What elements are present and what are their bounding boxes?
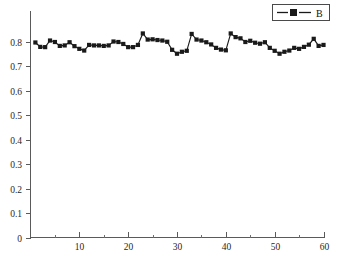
y-tick-label: 0.5 [10, 111, 22, 121]
legend-label-series-b: B [316, 8, 323, 19]
data-point [77, 47, 81, 51]
data-point [312, 37, 316, 41]
x-tick-label: 50 [271, 242, 281, 252]
y-tick-label: 0.2 [10, 185, 22, 195]
y-tick-label: 0.3 [10, 160, 22, 170]
chart-plot-area: 00.10.20.30.40.50.60.70.8 102030405060 B [0, 0, 337, 270]
y-tick-label: 0 [17, 234, 22, 244]
data-point [63, 43, 67, 47]
y-tick-label: 0.1 [10, 209, 22, 219]
data-point [297, 47, 301, 51]
data-point [33, 40, 37, 44]
data-point [107, 43, 111, 47]
data-point [111, 39, 115, 43]
data-point [243, 40, 247, 44]
data-point [185, 49, 189, 53]
data-point [317, 44, 321, 48]
data-point [263, 40, 267, 44]
data-point [292, 46, 296, 50]
data-point [194, 37, 198, 41]
data-point [307, 43, 311, 47]
data-point [155, 38, 159, 42]
data-point [97, 43, 101, 47]
data-point [321, 43, 325, 47]
x-tick-label: 60 [320, 242, 330, 252]
data-point [136, 43, 140, 47]
data-point [87, 43, 91, 47]
data-point [234, 35, 238, 39]
data-point [209, 42, 213, 46]
data-point [58, 44, 62, 48]
data-point [238, 36, 242, 40]
data-point [282, 50, 286, 54]
data-point [160, 38, 164, 42]
x-tick-label: 10 [75, 242, 85, 252]
data-point [72, 44, 76, 48]
data-point [268, 46, 272, 50]
data-point [175, 52, 179, 56]
data-point [141, 31, 145, 35]
data-point [43, 45, 47, 49]
data-point [150, 37, 154, 41]
data-point [121, 42, 125, 46]
data-point [131, 45, 135, 49]
data-point [277, 52, 281, 56]
data-point [199, 38, 203, 42]
data-point [102, 44, 106, 48]
legend-marker-square [290, 9, 297, 16]
y-tick-label: 0.8 [10, 38, 22, 48]
y-tick-label: 0.4 [10, 136, 22, 146]
data-point [67, 40, 71, 44]
data-point [229, 31, 233, 35]
data-point [214, 46, 218, 50]
data-point [273, 49, 277, 53]
x-tick-label: 20 [124, 242, 134, 252]
chart-figure: 00.10.20.30.40.50.60.70.8 102030405060 B [0, 0, 337, 270]
data-point [190, 32, 194, 36]
data-point [219, 47, 223, 51]
data-point [287, 48, 291, 52]
chart-legend[interactable]: B [273, 5, 330, 21]
data-point [253, 41, 257, 45]
data-point [224, 48, 228, 52]
y-axis-ticks: 00.10.20.30.40.50.60.70.8 [10, 38, 30, 244]
data-point [302, 45, 306, 49]
data-series-group [33, 31, 325, 55]
x-tick-label: 30 [173, 242, 183, 252]
data-point [165, 40, 169, 44]
y-tick-label: 0.7 [10, 62, 22, 72]
data-point [258, 42, 262, 46]
data-point [180, 50, 184, 54]
data-point [126, 45, 130, 49]
data-point [170, 48, 174, 52]
data-point [204, 40, 208, 44]
x-tick-label: 40 [222, 242, 232, 252]
data-point [146, 37, 150, 41]
data-point [92, 43, 96, 47]
data-point [53, 40, 57, 44]
data-point [38, 45, 42, 49]
data-point [48, 38, 52, 42]
data-point [82, 48, 86, 52]
x-axis-ticks: 102030405060 [56, 232, 330, 253]
data-point [116, 40, 120, 44]
y-tick-label: 0.6 [10, 87, 22, 97]
data-point [248, 39, 252, 43]
